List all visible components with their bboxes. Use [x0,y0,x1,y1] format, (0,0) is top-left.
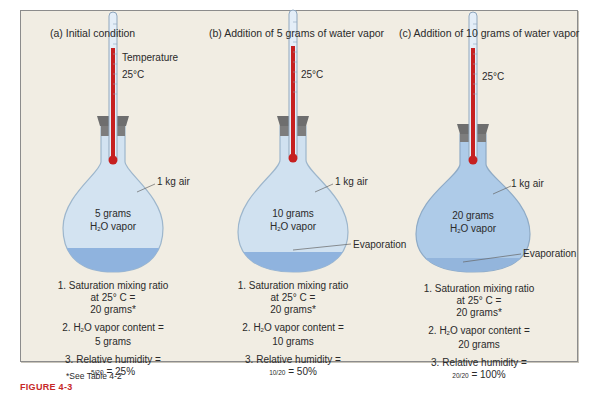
footnote: *See Table 4-2 [66,370,122,382]
figure-caption: FIGURE 4-3 [20,382,73,392]
panel-c-evaporation-label: Evaporation [523,248,576,260]
panel-c-temperature: 25°C [482,71,504,83]
panel-c-vapor-label: H2O vapor [433,223,513,237]
panel-c-title: (c) Addition of 10 grams of water vapor [399,27,579,39]
relative-humidity: 3. Relative humidity = 10/20 = 50% [228,354,358,379]
panel-b-vapor-label: H2O vapor [253,221,333,235]
panel-b-vapor-amount: 10 grams [253,208,333,220]
panel-c-air-label: 1 kg air [511,178,544,190]
panel-c-notes: 1. Saturation mixing ratio at 25° C = 20… [414,283,544,388]
temperature-label: Temperature [122,52,178,64]
panel-b-temperature: 25°C [301,69,323,81]
relative-humidity: 3. Relative humidity = 20/20 = 100% [414,357,544,382]
panel-a-vapor-label: H2O vapor [73,221,153,235]
panel-a-air-label: 1 kg air [157,176,190,188]
panel-a-temperature: 25°C [122,69,144,81]
vapor-content: 2. H2O vapor content = 5 grams [48,322,178,348]
vapor-content: 2. H2O vapor content = 10 grams [228,322,358,348]
panel-a-vapor-amount: 5 grams [73,208,153,220]
panel-b-evaporation-label: Evaporation [353,239,406,251]
saturation-mixing-ratio: 1. Saturation mixing ratio at 25° C = 20… [228,280,358,316]
panel-b-title: (b) Addition of 5 grams of water vapor [209,27,384,39]
saturation-mixing-ratio: 1. Saturation mixing ratio at 25° C = 20… [48,280,178,316]
vapor-content: 2. H2O vapor content = 20 grams [414,325,544,351]
flask-b [233,10,353,282]
saturation-mixing-ratio: 1. Saturation mixing ratio at 25° C = 20… [414,283,544,319]
flask-c [413,12,533,288]
panel-a-title: (a) Initial condition [50,27,135,39]
panel-c-vapor-amount: 20 grams [433,210,513,222]
panel-b-notes: 1. Saturation mixing ratio at 25° C = 20… [228,280,358,385]
panel-b-air-label: 1 kg air [335,176,368,188]
